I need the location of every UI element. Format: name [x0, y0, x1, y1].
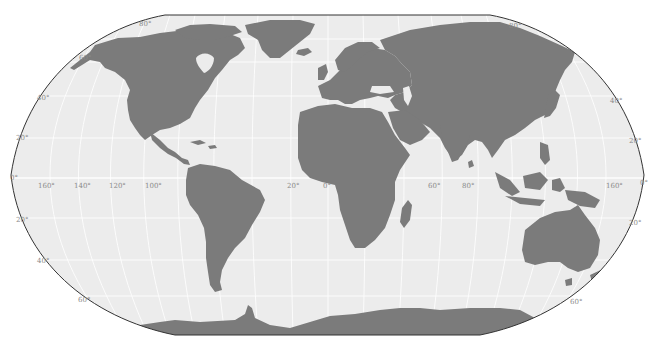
lat-label-20n-right: 20°	[629, 137, 641, 145]
lat-label-20s-left: 20°	[16, 216, 28, 224]
lat-label-60s-left: 60°	[78, 296, 90, 304]
lon-label-160w: 160°	[38, 182, 55, 190]
lat-label-40s-left: 40°	[37, 257, 49, 265]
lat-label-40n-right: 40°	[610, 97, 622, 105]
lon-label-60e: 60°	[428, 182, 440, 190]
lon-label-0: 0°	[323, 182, 331, 190]
lat-label-60n-left: 60°	[79, 54, 91, 62]
lon-label-80e: 80°	[462, 182, 474, 190]
lon-label-160e: 160°	[606, 182, 623, 190]
lon-label-120w: 120°	[109, 182, 126, 190]
lat-label-0-left: 0°	[10, 174, 18, 182]
lon-label-100w: 100°	[145, 182, 162, 190]
lat-label-40n-left: 40°	[37, 94, 49, 102]
lat-label-80n-left: 80°	[139, 20, 151, 28]
lat-label-80n-right: 80°	[509, 22, 521, 30]
lat-label-20n-left: 20°	[16, 134, 28, 142]
world-map: 80° 60° 40° 20° 0° 20° 40° 60° 80° 40° 2…	[0, 0, 655, 350]
lon-label-140w: 140°	[74, 182, 91, 190]
lat-label-20s-right: 20°	[629, 219, 641, 227]
lon-label-20w: 20°	[287, 182, 299, 190]
lat-label-60s-right: 60°	[570, 298, 582, 306]
lat-label-0-right: 0°	[640, 179, 648, 187]
